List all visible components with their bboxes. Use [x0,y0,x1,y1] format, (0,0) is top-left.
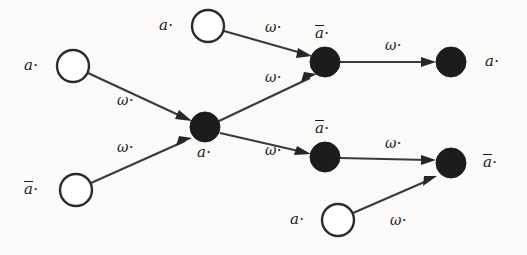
edge-label-marker: · [277,141,282,159]
node-n9[interactable] [322,204,354,236]
node-label-n4: a· [197,145,211,160]
edge-label-text: ω [385,37,397,53]
edge-label-e4: ω· [265,70,282,85]
arrow-head [421,57,436,67]
edge-label-text: ω [117,139,129,155]
edge-n2-n4 [91,136,192,183]
node-label-n8: a· [483,154,497,170]
node-label-marker: · [206,143,211,161]
node-label-text: a [197,143,206,161]
node-label-marker: · [492,153,497,171]
node-label-marker: · [494,52,499,70]
node-n3[interactable] [192,10,224,42]
node-label-text: a [485,52,494,70]
arrow-head [421,155,436,165]
node-n7[interactable] [436,47,466,77]
edge-label-text: ω [390,212,402,228]
node-n8[interactable] [436,148,466,178]
edge-label-marker: · [402,211,407,229]
node-label-n5: a· [315,25,329,41]
node-label-n7: a· [485,54,499,69]
edge-line [91,141,185,183]
edge-label-marker: · [277,18,282,36]
edge-label-marker: · [277,68,282,86]
node-layer [57,10,466,236]
node-label-n9: a· [290,212,304,227]
node-label-text: a [483,154,492,170]
node-label-marker: · [33,56,38,74]
edge-layer [88,31,437,213]
arrow-head [176,136,192,146]
node-label-marker: · [33,180,38,198]
graph-canvas [0,0,527,255]
node-n5[interactable] [310,47,340,77]
node-label-text: a [24,181,33,197]
edge-label-e7: ω· [385,136,402,151]
graph-figure: a· a· a· a· a· a· a· a· a· ω· ω· ω· ω· ω… [0,0,527,255]
edge-label-marker: · [129,138,134,156]
edge-label-text: ω [265,69,277,85]
edge-label-e5: ω· [265,143,282,158]
edge-n5-n7 [340,57,436,67]
node-n1[interactable] [57,50,89,82]
arrow-head [423,176,437,186]
edge-label-e1: ω· [117,93,134,108]
edge-label-marker: · [397,36,402,54]
node-label-marker: · [168,16,173,34]
edge-label-text: ω [265,19,277,35]
edge-label-e2: ω· [117,140,134,155]
node-label-text: a [24,56,33,74]
node-label-n6: a· [315,120,329,136]
edge-line [340,158,428,160]
node-label-text: a [315,25,324,41]
edge-line [353,180,429,213]
edge-label-text: ω [265,142,277,158]
edge-label-e3: ω· [265,20,282,35]
edge-label-marker: · [397,134,402,152]
edge-n9-n8 [353,176,437,213]
arrow-head [294,146,311,155]
node-n6[interactable] [310,142,340,172]
node-label-text: a [315,120,324,136]
edge-label-marker: · [129,91,134,109]
edge-line [88,73,185,118]
node-label-marker: · [324,119,329,137]
edge-n1-n4 [88,73,192,121]
node-label-n1: a· [24,58,38,73]
node-label-n2: a· [24,181,38,197]
arrow-head [301,72,317,82]
arrow-head [296,48,312,58]
node-label-text: a [290,210,299,228]
edge-label-e8: ω· [390,213,407,228]
node-label-marker: · [299,210,304,228]
node-n2[interactable] [60,174,92,206]
edge-n3-n5 [224,31,312,58]
edge-n6-n8 [340,155,436,165]
edge-label-e6: ω· [385,38,402,53]
node-label-n3: a· [159,18,173,33]
node-label-text: a [159,16,168,34]
edge-line [220,133,303,152]
edge-label-text: ω [385,135,397,151]
edge-label-text: ω [117,92,129,108]
node-label-marker: · [324,24,329,42]
arrow-head [175,110,192,121]
node-n4[interactable] [190,112,220,142]
